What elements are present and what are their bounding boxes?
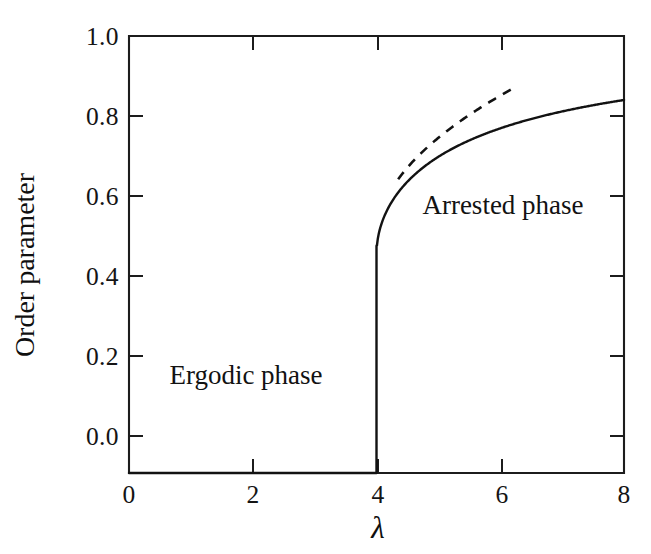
x-tick-label-2: 2 bbox=[246, 480, 259, 509]
data-series-group bbox=[129, 86, 624, 473]
order-parameter-curve bbox=[129, 100, 624, 473]
order-parameter-chart: 1.0 0.8 0.6 0.4 0.2 0.0 0 2 4 6 8 Order … bbox=[0, 0, 651, 554]
y-tick-label-0.6: 0.6 bbox=[86, 182, 119, 211]
figure-container: 1.0 0.8 0.6 0.4 0.2 0.0 0 2 4 6 8 Order … bbox=[0, 0, 651, 554]
y-tick-labels: 1.0 0.8 0.6 0.4 0.2 0.0 bbox=[86, 22, 119, 451]
x-tick-label-4: 4 bbox=[371, 480, 384, 509]
x-tick-labels: 0 2 4 6 8 bbox=[122, 480, 630, 509]
x-axis-title: λ bbox=[370, 510, 384, 545]
x-tick-label-6: 6 bbox=[495, 480, 508, 509]
y-tick-label-0.2: 0.2 bbox=[86, 342, 119, 371]
asymptotic-sqrt-law-curve bbox=[398, 86, 517, 179]
annotation-ergodic-phase: Ergodic phase bbox=[169, 360, 322, 390]
x-axis-ticks-top bbox=[253, 36, 502, 50]
y-axis-ticks bbox=[129, 36, 143, 436]
x-tick-label-0: 0 bbox=[122, 480, 135, 509]
y-tick-label-0.8: 0.8 bbox=[86, 102, 119, 131]
y-axis-title: Order parameter bbox=[9, 172, 40, 357]
y-axis-ticks-right bbox=[610, 116, 624, 436]
x-tick-label-8: 8 bbox=[617, 480, 630, 509]
y-tick-label-0.0: 0.0 bbox=[86, 422, 119, 451]
annotation-arrested-phase: Arrested phase bbox=[422, 190, 583, 220]
y-tick-label-1.0: 1.0 bbox=[86, 22, 119, 51]
y-tick-label-0.4: 0.4 bbox=[86, 262, 119, 291]
